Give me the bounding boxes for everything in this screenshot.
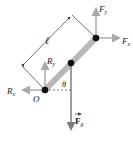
pivot-label: O <box>33 94 40 104</box>
svg-text:Fg: Fg <box>75 116 84 127</box>
ry-label: Ry <box>46 56 56 67</box>
center-of-mass-point <box>68 60 75 67</box>
fg-label: Fg <box>75 114 84 127</box>
fx-label: Fx <box>121 36 131 47</box>
fy-label: Fy <box>98 4 108 15</box>
end-point <box>93 35 100 42</box>
length-label: ℓ <box>45 35 49 46</box>
extension-line-top <box>72 15 96 38</box>
free-body-diagram: ℓ Fy Fx Ry Rx O θ Fg <box>0 0 133 143</box>
rx-label: Rx <box>6 86 16 97</box>
angle-label: θ <box>62 80 66 89</box>
pivot-point <box>42 87 49 94</box>
extension-line-bottom <box>22 66 45 90</box>
